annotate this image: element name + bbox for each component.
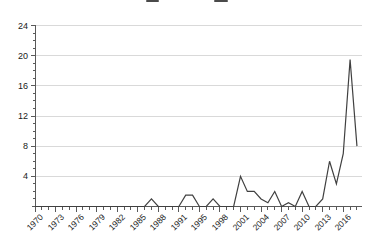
plot-area bbox=[0, 0, 369, 248]
data-series-line bbox=[35, 59, 357, 206]
y-tick-label: 8 bbox=[2, 141, 28, 151]
y-tick-label: 12 bbox=[2, 111, 28, 121]
line-chart: 4812162024197019731976197919821985198819… bbox=[0, 0, 369, 248]
y-tick-label: 16 bbox=[2, 81, 28, 91]
y-tick-label: 4 bbox=[2, 171, 28, 181]
y-tick-label: 20 bbox=[2, 51, 28, 61]
y-tick-label: 24 bbox=[2, 21, 28, 31]
